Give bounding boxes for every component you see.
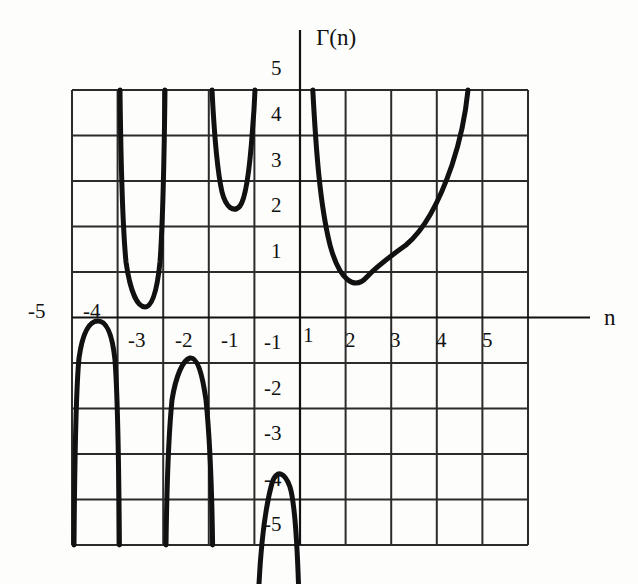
chart-canvas — [0, 0, 638, 584]
y-tick-label-4: 1 — [271, 241, 282, 262]
x-tick-label-5: 1 — [303, 325, 314, 346]
y-tick-label-3: 2 — [271, 195, 282, 216]
y-tick-label-5: -1 — [264, 332, 282, 353]
x-tick-label-9: 5 — [482, 330, 493, 351]
y-tick-label-8: -4 — [264, 469, 282, 490]
y-tick-label-7: -3 — [264, 423, 282, 444]
x-tick-label-7: 3 — [390, 330, 401, 351]
x-tick-label-3: -2 — [175, 330, 193, 351]
x-axis-title: n — [604, 306, 616, 329]
curve-branch-minus3-minus2 — [166, 358, 213, 545]
axes — [72, 30, 590, 545]
y-tick-label-1: 4 — [271, 104, 282, 125]
y-tick-label-2: 3 — [271, 150, 282, 171]
y-axis-title: Γ(n) — [316, 26, 356, 49]
y-tick-label-6: -2 — [264, 378, 282, 399]
x-tick-label-0: -5 — [28, 301, 46, 322]
x-tick-label-6: 2 — [345, 330, 356, 351]
x-tick-label-4: -1 — [221, 330, 239, 351]
x-tick-label-1: -4 — [83, 301, 101, 322]
curve-branch-minus5-minus4 — [74, 321, 119, 545]
gamma-function-plot: Γ(n) n -5-4-3-2-112345 54321-1-2-3-4-5 — [0, 0, 638, 584]
curve-branch-minus2-minus1 — [212, 90, 255, 209]
x-tick-label-8: 4 — [436, 330, 447, 351]
y-tick-label-9: -5 — [264, 514, 282, 535]
y-tick-label-0: 5 — [271, 58, 282, 79]
x-tick-label-2: -3 — [128, 330, 146, 351]
curve-branch-minus4-minus3 — [120, 90, 165, 307]
